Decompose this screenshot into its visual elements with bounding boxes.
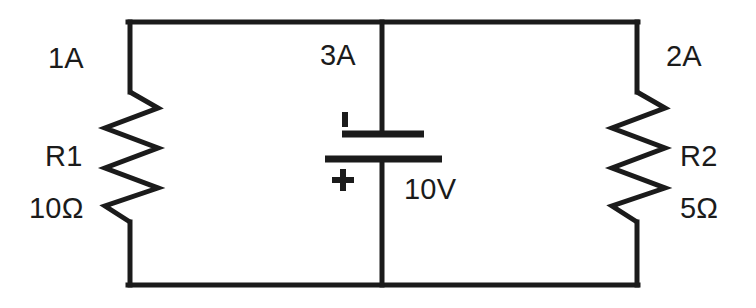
resistor-r2-value-label: 5Ω xyxy=(680,194,718,223)
current-label-right: 2A xyxy=(666,42,702,71)
circuit-diagram: 1A 3A 2A R1 10Ω R2 5Ω 10V xyxy=(0,0,756,308)
voltage-source-value-label: 10V xyxy=(404,175,456,204)
current-label-left: 1A xyxy=(48,44,84,73)
battery-plus-sign xyxy=(332,169,354,191)
resistor-r1-name-label: R1 xyxy=(45,142,82,171)
current-label-center: 3A xyxy=(320,41,356,70)
circuit-schematic-svg xyxy=(0,0,756,308)
resistor-r2-name-label: R2 xyxy=(680,142,717,171)
resistor-r2-symbol xyxy=(612,92,665,222)
resistor-r1-value-label: 10Ω xyxy=(29,194,84,223)
resistor-r1-symbol xyxy=(105,92,158,222)
